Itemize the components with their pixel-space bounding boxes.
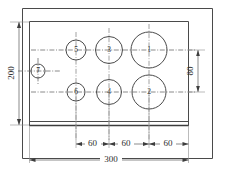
dim-60a-arrow-left bbox=[76, 142, 82, 146]
hole-5-label: 5 bbox=[74, 45, 78, 54]
dim-200-text: 200 bbox=[6, 66, 16, 80]
hole-7-label: 7 bbox=[36, 66, 40, 75]
dim-80-text: 80 bbox=[185, 66, 195, 76]
dim-60c-arrow-right bbox=[183, 142, 189, 146]
dim-80-arrow-bottom bbox=[196, 86, 200, 92]
dim-60b-arrow-right bbox=[143, 142, 149, 146]
hole-3-label: 3 bbox=[107, 45, 111, 54]
hole-1-label: 1 bbox=[147, 45, 151, 54]
dim-200-arrow-top bbox=[17, 22, 21, 28]
dim-80-arrow-top bbox=[196, 50, 200, 56]
technical-drawing-canvas: 5 3 1 6 4 2 7 200 80 bbox=[0, 0, 234, 176]
dim-60a-text: 60 bbox=[88, 138, 98, 148]
dim-60c-arrow-left bbox=[149, 142, 155, 146]
dim-200-arrow-bottom bbox=[17, 119, 21, 125]
dim-60b-text: 60 bbox=[122, 138, 132, 148]
part-drawing-svg: 5 3 1 6 4 2 7 200 80 bbox=[0, 0, 234, 176]
dim-300-text: 300 bbox=[104, 154, 118, 164]
dim-60a-arrow-right bbox=[103, 142, 109, 146]
dim-60c-text: 60 bbox=[164, 138, 174, 148]
dim-60b-arrow-left bbox=[109, 142, 115, 146]
